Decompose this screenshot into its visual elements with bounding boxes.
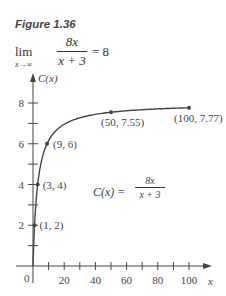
y-axis-arrow bbox=[30, 73, 36, 82]
function-denominator: x + 3 bbox=[135, 189, 165, 200]
data-label: (50, 7.55) bbox=[101, 116, 144, 129]
x-tick-label: 100 bbox=[181, 274, 198, 286]
function-fraction: 8x x + 3 bbox=[135, 175, 165, 200]
data-label: (3, 4) bbox=[43, 179, 67, 192]
fraction-bar bbox=[135, 187, 165, 188]
data-label: (1, 2) bbox=[40, 219, 64, 232]
data-point bbox=[36, 183, 40, 187]
data-point bbox=[187, 106, 191, 110]
y-tick-label: 4 bbox=[19, 179, 25, 191]
origin-label: 0 bbox=[24, 272, 30, 284]
data-point bbox=[45, 142, 49, 146]
data-point bbox=[109, 110, 113, 114]
y-tick-label: 2 bbox=[19, 219, 25, 231]
x-tick-label: 80 bbox=[152, 274, 164, 286]
function-numerator: 8x bbox=[135, 175, 165, 186]
y-tick-label: 8 bbox=[19, 97, 25, 109]
data-label: (100, 7.77) bbox=[174, 112, 223, 125]
data-label: (9, 6) bbox=[53, 138, 77, 151]
x-axis-arrow bbox=[203, 263, 212, 269]
chart: xC(x)0204060801002468(1, 2)(3, 4)(9, 6)(… bbox=[0, 0, 226, 296]
y-axis-label: C(x) bbox=[38, 72, 58, 85]
x-axis-label: x bbox=[207, 275, 213, 287]
x-tick-label: 20 bbox=[59, 274, 71, 286]
y-tick-label: 6 bbox=[19, 138, 25, 150]
data-point bbox=[33, 223, 37, 227]
function-lhs: C(x) = bbox=[93, 185, 125, 200]
x-tick-label: 40 bbox=[90, 274, 102, 286]
x-tick-label: 60 bbox=[121, 274, 133, 286]
